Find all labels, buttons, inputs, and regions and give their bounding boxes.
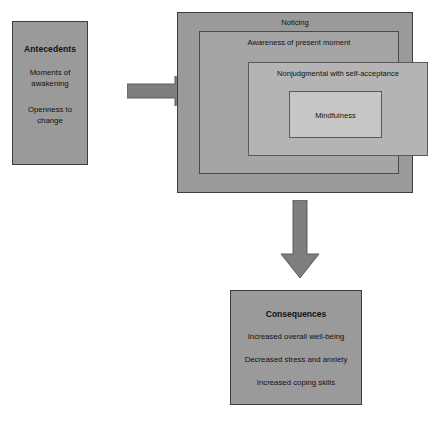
noticing-label: Noticing xyxy=(178,18,412,27)
antecedents-box: Antecedents Moments of awakening Opennes… xyxy=(12,21,88,165)
concept-diagram: Antecedents Moments of awakening Opennes… xyxy=(0,0,441,423)
nonjudgmental-label: Nonjudgmental with self-acceptance xyxy=(249,69,427,78)
mindfulness-label: Mindfulness xyxy=(290,111,381,120)
arrow-down-icon xyxy=(280,200,320,278)
antecedents-item-1: Moments of awakening xyxy=(16,68,84,89)
consequences-item-1: Increased overall well-being xyxy=(248,332,345,342)
antecedents-title: Antecedents xyxy=(24,44,76,54)
consequences-item-3: Increased coping skills xyxy=(257,378,335,388)
consequences-box: Consequences Increased overall well-bein… xyxy=(230,290,362,405)
antecedents-item-2: Openness to change xyxy=(16,105,84,126)
consequences-item-2: Decreased stress and anxiety xyxy=(245,355,348,365)
consequences-title: Consequences xyxy=(266,309,326,319)
mindfulness-core-box: Mindfulness xyxy=(289,91,382,138)
awareness-label: Awareness of present moment xyxy=(200,38,398,47)
